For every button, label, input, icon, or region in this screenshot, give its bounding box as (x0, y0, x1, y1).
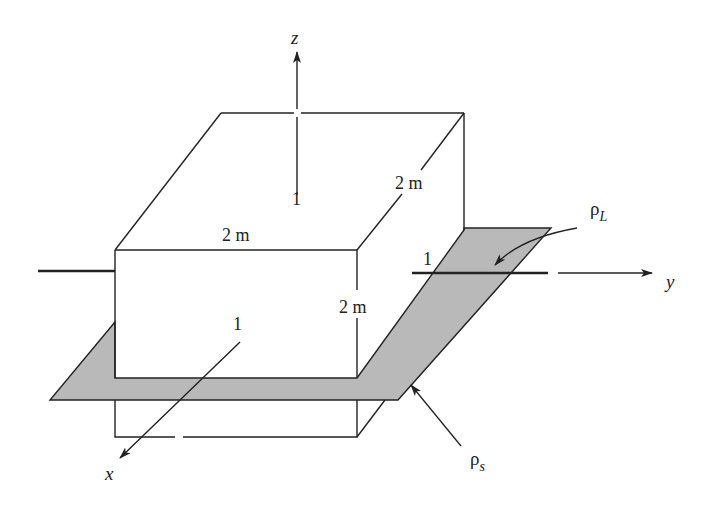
z-axis-label: z (290, 27, 299, 48)
line-charge-subscript: L (598, 209, 607, 224)
box-plane-line-charge-diagram: z y x 1 1 1 2 m 2 m 2 m ρL ρs (0, 0, 709, 518)
charged-plane (50, 228, 551, 400)
y-mark-label: 1 (423, 249, 432, 269)
line-charge-symbol: ρ (590, 198, 599, 219)
line-charge-label: ρL (590, 198, 607, 224)
surface-charge-label: ρs (470, 448, 485, 474)
box-depth-label: 2 m (395, 173, 423, 193)
y-axis-label: y (664, 271, 675, 292)
x-axis-label: x (104, 463, 114, 484)
box-width-label: 2 m (222, 225, 250, 245)
surface-charge-symbol: ρ (470, 448, 479, 469)
z-mark-label: 1 (292, 189, 301, 209)
x-mark-label: 1 (233, 314, 242, 334)
surface-charge-subscript: s (479, 459, 485, 474)
box-height-label: 2 m (339, 297, 367, 317)
box-lower-part (115, 400, 385, 437)
surface-charge-pointer-arrow (411, 385, 461, 446)
